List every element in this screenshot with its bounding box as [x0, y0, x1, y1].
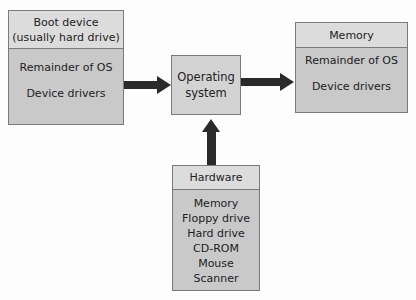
hardware-title: Hardware [173, 170, 259, 185]
os-label-line1: Operating [172, 69, 240, 85]
hardware-box: Hardware Memory Floppy drive Hard drive … [172, 165, 260, 291]
boot-device-box: Boot device (usually hard drive) Remaind… [8, 10, 124, 125]
memory-box: Memory Remainder of OS Device drivers [295, 22, 408, 113]
memory-body: Remainder of OS Device drivers [296, 48, 407, 93]
boot-device-body: Remainder of OS Device drivers [9, 49, 123, 100]
boot-device-header: Boot device (usually hard drive) [9, 11, 123, 49]
hardware-item: Floppy drive [173, 211, 259, 226]
hardware-item: CD-ROM [173, 241, 259, 256]
boot-item: Remainder of OS [9, 61, 123, 74]
arrow-boot-to-os [124, 81, 158, 89]
boot-device-subtitle: (usually hard drive) [9, 30, 123, 45]
arrow-hardware-to-os [207, 131, 216, 165]
memory-title: Memory [296, 28, 407, 43]
hardware-item: Mouse [173, 256, 259, 271]
arrowhead-right [280, 73, 294, 91]
hardware-header: Hardware [173, 166, 259, 190]
memory-item: Remainder of OS [296, 54, 407, 67]
hardware-item: Scanner [173, 271, 259, 286]
arrowhead-right [157, 76, 171, 94]
memory-header: Memory [296, 23, 407, 48]
hardware-body: Memory Floppy drive Hard drive CD-ROM Mo… [173, 190, 259, 286]
memory-item: Device drivers [296, 80, 407, 93]
arrow-os-to-memory [241, 78, 281, 86]
hardware-item: Hard drive [173, 226, 259, 241]
boot-item: Device drivers [9, 87, 123, 100]
boot-device-title: Boot device [9, 15, 123, 30]
hardware-item: Memory [173, 196, 259, 211]
arrowhead-up [202, 119, 220, 132]
operating-system-box: Operating system [171, 55, 241, 115]
os-label-line2: system [172, 85, 240, 101]
